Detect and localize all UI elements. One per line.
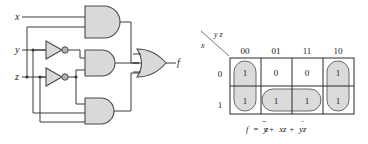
output-label-f: f xyxy=(177,57,181,68)
inverter-z-gate xyxy=(46,68,68,86)
and-gate-middle-body xyxy=(85,50,115,76)
eq-plus-2: + xyxy=(289,124,294,134)
inverter-z-triangle xyxy=(46,68,62,86)
kmap-equation: f = y‾z‾+ xz+ yz‾ xyxy=(246,120,307,134)
or-gate-body xyxy=(137,49,166,77)
kmap-row-header-0: 0 xyxy=(218,69,223,79)
kmap-col-variable-label: y z xyxy=(213,30,224,39)
kmap-corner-axis-label: y z x xyxy=(200,30,229,56)
inverter-y-triangle xyxy=(46,41,62,59)
kmap-panel: y z x 00 01 11 10 0 1 xyxy=(184,0,368,144)
kmap-equation-text: f = y‾z‾+ xz+ yz‾ xyxy=(246,120,307,134)
kmap-cell-r1c1: 1 xyxy=(274,96,279,106)
and-gate-bottom xyxy=(85,98,114,124)
kmap-col-header-2: 11 xyxy=(303,46,312,56)
inverter-y-bubble-icon xyxy=(62,47,68,53)
wire-and-top-to-or xyxy=(120,22,139,63)
kmap-row-variable-label: x xyxy=(200,41,205,50)
kmap-col-header-1: 01 xyxy=(272,46,281,56)
and-gate-top-body xyxy=(85,6,120,38)
or-gate-output xyxy=(137,49,166,77)
kmap-cell-r0c0: 1 xyxy=(243,68,248,78)
circuit-svg: x y z xyxy=(0,0,184,144)
logic-circuit-and-kmap-figure: x y z xyxy=(0,0,368,144)
kmap-cell-r1c2: 1 xyxy=(305,96,310,106)
kmap-cell-r0c2: 0 xyxy=(305,68,310,78)
kmap-col-header-3: 10 xyxy=(334,46,344,56)
junction-dot-zbar xyxy=(74,75,77,78)
kmap-col-header-0: 00 xyxy=(241,46,251,56)
kmap-svg: y z x 00 01 11 10 0 1 xyxy=(184,0,368,144)
kmap-row-header-1: 1 xyxy=(218,100,223,110)
input-label-x: x xyxy=(14,11,20,22)
kmap-cell-r1c3: 1 xyxy=(336,96,341,106)
inverter-y-gate xyxy=(46,41,68,59)
eq-plus-1: + xyxy=(269,124,274,134)
circuit-diagram-panel: x y z xyxy=(0,0,184,144)
kmap-cell-r1c0: 1 xyxy=(243,96,248,106)
and-gate-bottom-body xyxy=(85,98,114,124)
eq-t2-v2: z xyxy=(282,124,287,134)
wire-ybar-to-and-middle xyxy=(68,50,85,58)
and-gate-middle xyxy=(85,50,115,76)
wire-zbar-to-and-bottom xyxy=(76,77,85,104)
input-label-y: y xyxy=(14,44,20,55)
eq-lhs: f xyxy=(246,124,250,134)
eq-operator: = xyxy=(254,124,259,134)
junction-dot-z-up xyxy=(25,75,28,78)
kmap-cell-r0c3: 1 xyxy=(336,68,341,78)
input-label-z: z xyxy=(14,71,19,82)
wire-and-bottom-to-or xyxy=(114,73,139,111)
inverter-z-bubble-icon xyxy=(62,74,68,80)
and-gate-top xyxy=(85,6,120,38)
kmap-cell-r0c1: 0 xyxy=(274,68,279,78)
